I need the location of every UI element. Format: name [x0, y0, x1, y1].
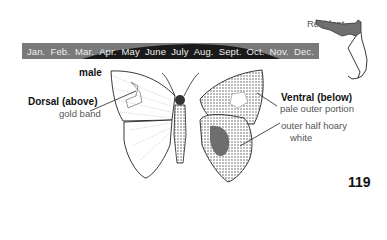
dorsal-forewing	[111, 71, 175, 121]
ventral-note-hoary: outer half hoary	[281, 120, 347, 131]
sex-label: male	[79, 67, 102, 78]
butterfly-body	[174, 105, 186, 163]
ventral-title: Ventral (below)	[281, 92, 352, 103]
antenna-right	[184, 73, 199, 96]
dorsal-hindwing	[124, 120, 172, 178]
ventral-note-hoary-cont: white	[290, 132, 312, 143]
ventral-note-pale: pale outer portion	[280, 103, 354, 114]
dorsal-note: gold band	[59, 108, 101, 119]
dorsal-title: Dorsal (above)	[28, 96, 97, 107]
butterfly-head	[175, 95, 185, 105]
page-number: 119	[348, 174, 371, 190]
